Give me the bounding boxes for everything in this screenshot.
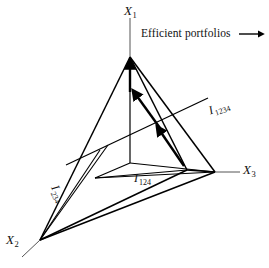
- tetrahedron-diagram: [0, 0, 269, 268]
- tetrahedron-edges: [40, 57, 215, 240]
- i1234-line-group: [66, 98, 208, 165]
- edge-x2-x4: [40, 170, 187, 240]
- efficient-segment-diagonal-lower: [158, 128, 184, 166]
- i1234-line: [66, 98, 208, 165]
- efficient-portfolio-path: [130, 62, 184, 166]
- edge-x1-x4: [130, 57, 187, 170]
- edge-x2-x3: [40, 172, 215, 240]
- origin-axis-stems: [95, 57, 215, 178]
- axis-x2-line: [22, 240, 40, 257]
- axis-label-x2: X2: [6, 233, 18, 246]
- figure-root: X1 X2 X3 I1234 I124 I234 Efficient portf…: [0, 0, 269, 268]
- edge-x1-x2: [40, 57, 130, 240]
- efficient-portfolios-label: Efficient portfolios: [141, 28, 231, 40]
- axis-label-x3: X3: [243, 163, 255, 176]
- axis-lines: [22, 18, 240, 257]
- axis-label-x1: X1: [124, 4, 136, 17]
- curve-label-i124: I124: [134, 172, 150, 184]
